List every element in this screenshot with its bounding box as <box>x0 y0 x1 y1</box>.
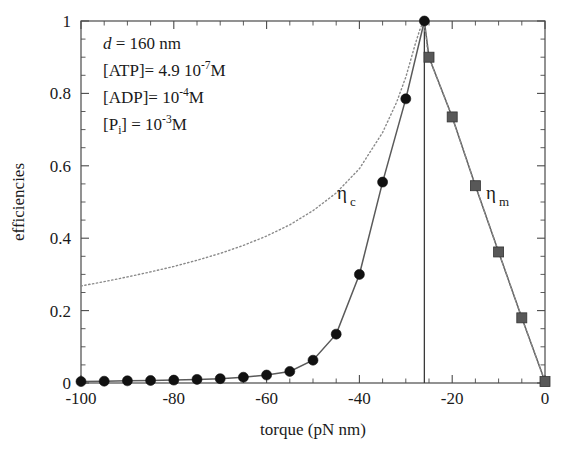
annotation-line-atp: [ATP]= 4.9 10-7M <box>103 57 323 84</box>
annotation-atp-exponent: -7 <box>201 59 211 72</box>
annotation-pi-unit: M <box>172 115 187 134</box>
data-point-eta-c <box>401 94 411 104</box>
x-tick-label: -80 <box>162 389 185 408</box>
y-tick-label: 0 <box>63 374 72 393</box>
annotation-adp-unit: M <box>189 88 204 107</box>
parameters-annotation: d = 160 nm [ATP]= 4.9 10-7M [ADP]= 10-4M… <box>103 30 323 138</box>
data-point-eta-c <box>76 377 86 387</box>
data-point-eta-c <box>122 376 132 386</box>
series-label-eta-m-symbol: η <box>486 182 496 203</box>
series-label-eta-m-subscript: m <box>499 194 509 209</box>
annotation-adp-prefix: [ADP]= 10 <box>103 88 179 107</box>
x-tick-label: -60 <box>255 389 278 408</box>
y-axis-title: efficiencies <box>9 163 28 241</box>
annotation-line-pi: [Pi] = 10-3M <box>103 111 323 138</box>
data-point-eta-c <box>378 177 388 187</box>
data-point-eta-m <box>424 52 434 62</box>
x-axis-title: torque (pN nm) <box>260 420 366 439</box>
data-point-eta-c <box>99 376 109 386</box>
x-tick-label: -40 <box>348 389 371 408</box>
data-point-eta-c <box>331 329 341 339</box>
annotation-d-symbol: d <box>103 34 112 53</box>
series-label-eta-m: ηm <box>486 182 509 209</box>
data-point-eta-c <box>146 375 156 385</box>
data-point-eta-m <box>447 112 457 122</box>
annotation-d-value: = 160 nm <box>112 34 182 53</box>
x-tick-label: -20 <box>441 389 464 408</box>
data-point-eta-m <box>517 313 527 323</box>
data-point-eta-m <box>540 377 550 387</box>
series-label-eta-c-subscript: c <box>350 194 356 209</box>
data-point-eta-c <box>354 269 364 279</box>
y-tick-label: 0.4 <box>50 229 72 248</box>
series-label-eta-c: ηc <box>337 182 356 209</box>
y-tick-label: 1 <box>63 12 72 31</box>
data-point-eta-c <box>419 16 429 26</box>
y-tick-label: 0.8 <box>50 84 71 103</box>
data-point-eta-c <box>192 374 202 384</box>
series-label-eta-c-symbol: η <box>337 182 347 203</box>
annotation-atp-unit: M <box>211 61 226 80</box>
x-tick-label: 0 <box>541 389 550 408</box>
data-point-eta-c <box>308 355 318 365</box>
data-point-eta-c <box>169 375 179 385</box>
annotation-adp-exponent: -4 <box>179 86 189 99</box>
data-point-eta-m <box>470 181 480 191</box>
annotation-line-adp: [ADP]= 10-4M <box>103 84 323 111</box>
annotation-pi-prefix: [P <box>103 115 118 134</box>
annotation-pi-mid: ] = 10 <box>121 115 162 134</box>
y-tick-label: 0.2 <box>50 302 71 321</box>
annotation-pi-exponent: -3 <box>162 113 172 126</box>
data-point-eta-c <box>238 372 248 382</box>
annotation-line-diameter: d = 160 nm <box>103 30 323 57</box>
chart-figure: -100-80-60-40-20000.20.40.60.81torque (p… <box>0 0 563 457</box>
series-path-eta-m <box>424 21 545 382</box>
data-point-eta-c <box>215 374 225 384</box>
data-point-eta-c <box>262 370 272 380</box>
data-point-eta-c <box>285 366 295 376</box>
annotation-atp-prefix: [ATP]= 4.9 10 <box>103 61 201 80</box>
data-point-eta-m <box>494 247 504 257</box>
y-tick-label: 0.6 <box>50 157 71 176</box>
